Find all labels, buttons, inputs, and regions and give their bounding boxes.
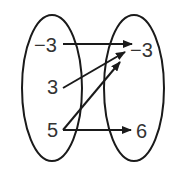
domain-value-3: 3 [47,76,58,98]
domain-value-neg3: −3 [34,34,57,56]
mapping-diagram: −3 3 5 −3 6 [0,0,178,172]
range-value-neg3: −3 [130,39,153,61]
range-value-6: 6 [136,120,147,142]
arrow-3-to-neg3 [63,52,125,88]
range-ellipse [104,15,164,161]
diagram-svg: −3 3 5 −3 6 [0,0,178,172]
domain-value-5: 5 [47,119,58,141]
